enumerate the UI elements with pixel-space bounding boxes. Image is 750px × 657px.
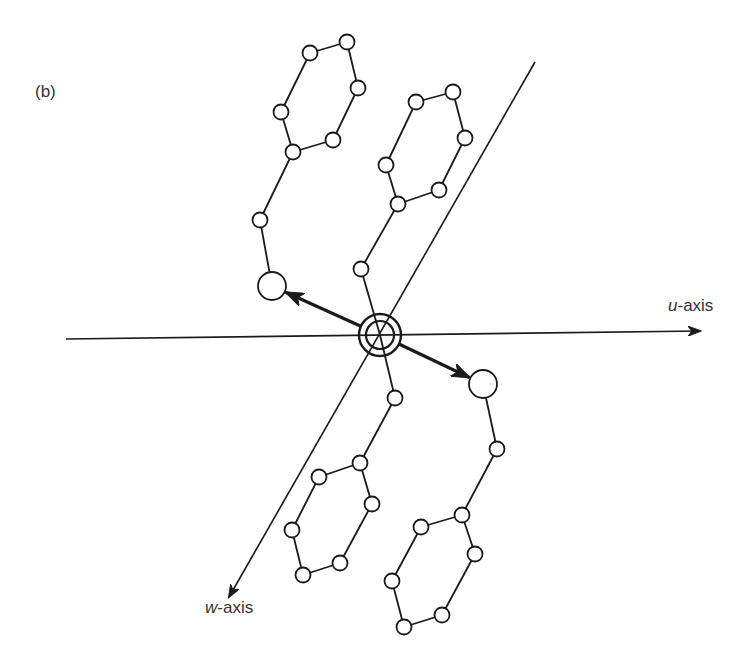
ring-bond — [442, 554, 475, 615]
lower-left-ring — [292, 463, 372, 575]
u-axis-suffix: -axis — [677, 296, 713, 315]
ring-atom — [340, 35, 355, 50]
ring-bond — [439, 138, 465, 190]
dipole-arrow-left — [286, 292, 361, 326]
u-axis-line — [66, 331, 700, 339]
ring-atom — [409, 95, 424, 110]
ring-bond — [281, 53, 310, 112]
ring-atom — [455, 508, 470, 523]
panel-label: (b) — [35, 82, 56, 102]
chain-bond — [380, 335, 395, 398]
diagram-canvas — [0, 0, 750, 657]
ring-atom — [468, 547, 483, 562]
large-atom-right — [469, 370, 497, 398]
chain-bond — [260, 152, 293, 220]
large-atom-left — [258, 272, 286, 300]
ring-atom — [391, 197, 406, 212]
u-axis-label: u-axis — [668, 296, 713, 316]
ring-bond — [340, 504, 372, 563]
ring-atom — [397, 620, 412, 635]
ring-atom — [351, 81, 366, 96]
ring-atom — [333, 556, 348, 571]
ring-atom — [458, 131, 473, 146]
ring-atom — [365, 497, 380, 512]
ring-atom — [312, 470, 327, 485]
ring-atom — [385, 574, 400, 589]
link-lower-left-atom — [388, 391, 403, 406]
ring-atom — [303, 46, 318, 61]
ring-atom — [379, 158, 394, 173]
w-axis-label: w-axis — [205, 598, 253, 618]
w-axis-variable: w — [205, 598, 217, 617]
dipole-arrow-right — [399, 344, 469, 378]
ring-atom — [432, 183, 447, 198]
w-axis-line — [229, 62, 535, 597]
ring-atom — [446, 85, 461, 100]
link-upper-middle-atom — [354, 262, 369, 277]
ring-atom — [285, 523, 300, 538]
upper-middle-ring — [386, 92, 465, 204]
ring-atom — [286, 145, 301, 160]
link-upper-left-atom — [253, 213, 268, 228]
chain-bond — [361, 204, 398, 269]
ring-bond — [333, 88, 358, 140]
ring-bond — [292, 477, 319, 530]
w-axis-suffix: -axis — [217, 598, 253, 617]
ring-atom — [296, 568, 311, 583]
ring-atom — [414, 520, 429, 535]
ring-bond — [386, 102, 416, 165]
ring-atom — [435, 608, 450, 623]
upper-left-ring — [281, 42, 358, 152]
axes-layer — [66, 62, 700, 597]
link-lower-right-atom — [490, 442, 505, 457]
ring-atom — [353, 456, 368, 471]
lower-right-ring — [392, 515, 475, 627]
ring-atom — [326, 133, 341, 148]
chain-bond — [462, 449, 497, 515]
chain-bond — [360, 398, 395, 463]
ring-bond — [392, 527, 421, 581]
ring-atom — [274, 105, 289, 120]
